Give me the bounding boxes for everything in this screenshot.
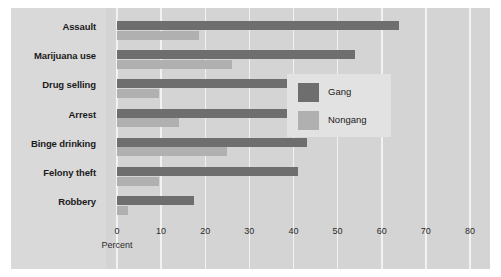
category-label: Arrest [69,108,96,119]
x-axis-title: Percent [101,240,132,250]
category-label: Binge drinking [31,137,96,148]
legend-label: Nongang [328,114,367,125]
x-tick-label: 60 [377,226,387,236]
bar-chart: AssaultMarijuana useDrug sellingArrestBi… [11,8,490,269]
bar-gang [117,138,307,147]
bar-nongang [117,60,232,69]
legend-swatch [298,111,319,130]
bar-nongang [117,31,199,40]
x-tick-label: 20 [200,226,210,236]
category-label: Assault [62,21,96,32]
bar-nongang [117,118,179,127]
x-tick-label: 40 [288,226,298,236]
bar-gang [117,50,355,59]
bar-nongang [117,206,128,215]
category-label: Robbery [58,196,96,207]
x-tick-label: 30 [244,226,254,236]
bar-gang [117,167,298,176]
bar-gang [117,196,194,205]
x-tick-label: 0 [114,226,119,236]
category-label: Drug selling [42,79,96,90]
plot-area: 01020304050607080 Percent [106,8,490,269]
x-tick-label: 50 [333,226,343,236]
category-label: Marijuana use [34,50,96,61]
bar-nongang [117,147,227,156]
legend-swatch [298,83,319,102]
category-label-panel: AssaultMarijuana useDrug sellingArrestBi… [11,8,106,269]
x-tick-label: 70 [421,226,431,236]
x-tick-label: 80 [465,226,475,236]
category-label: Felony theft [43,167,96,178]
bar-nongang [117,89,159,98]
bar-gang [117,21,399,30]
legend-label: Gang [328,86,351,97]
chart-legend: GangNongang [287,74,391,137]
x-tick-label: 10 [156,226,166,236]
bar-nongang [117,177,159,186]
